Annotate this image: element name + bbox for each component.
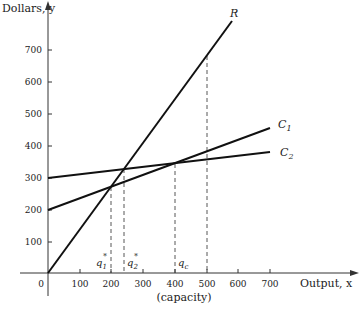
x-tick-labels: 0 100 200 300 400 500 600 700 [38,279,279,289]
x-tick-label: 600 [229,279,246,289]
origin-label: 0 [38,279,44,289]
series-C2 [48,152,270,178]
series-C1 [48,128,270,210]
x-tick-label: 100 [71,279,88,289]
y-tick-label: 500 [25,109,42,119]
x-tick-label: 300 [134,279,151,289]
x-tick-label: 200 [102,279,119,289]
y-ticks [48,50,52,242]
axes [20,4,356,296]
x-tick-label: 500 [198,279,215,289]
y-tick-label: 300 [25,173,42,183]
y-tick-label: 400 [25,141,42,151]
qc-label: qc [178,257,188,271]
series [48,21,270,273]
y-tick-label: 700 [25,45,42,55]
x-axis-title: Output, x [300,277,353,290]
x-axis-arrow-icon [350,270,359,276]
y-tick-label: 200 [25,205,42,215]
series-label-R: R [229,7,238,20]
series-label-C2: C2 [280,146,294,161]
series-R [48,21,232,273]
y-axis-title: Dollars, y [2,2,56,15]
x-tick-label: 700 [261,279,278,289]
q2-star-label: q2* [127,252,138,271]
series-label-C1: C1 [278,118,292,133]
y-tick-labels: 100 200 300 400 500 600 700 [25,45,42,247]
x-tick-label: 400 [166,279,183,289]
y-tick-label: 100 [25,237,42,247]
break-even-chart: 100 200 300 400 500 600 700 0 100 200 30… [0,0,361,310]
q1-star-label: q1* [96,252,107,271]
capacity-label: (capacity) [156,291,211,304]
y-tick-label: 600 [25,77,42,87]
